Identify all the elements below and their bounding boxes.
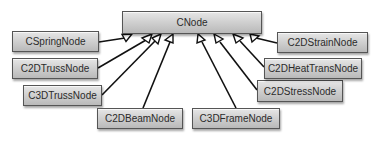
edge-c3dtrussnode <box>102 41 155 95</box>
arrowhead-cspringnode <box>122 34 132 42</box>
edge-c2dtrussnode <box>98 40 146 68</box>
edge-c2dstrainnode <box>256 38 277 43</box>
arrowhead-c2dstrainnode <box>250 34 259 42</box>
class-label-c3dframenode: C3DFrameNode <box>200 113 273 124</box>
edge-c2dbeamnode <box>143 42 170 108</box>
edge-cspringnode <box>99 38 125 42</box>
class-box-cspringnode: CSpringNode <box>12 31 99 52</box>
class-box-c2dstressnode: C2DStressNode <box>257 80 343 102</box>
class-box-c2dheattransnode: C2DHeatTransNode <box>264 58 362 79</box>
arrowhead-c2dstressnode <box>214 34 223 43</box>
class-label-c2dheattransnode: C2DHeatTransNode <box>268 63 358 74</box>
arrowhead-c2dbeamnode <box>165 34 173 43</box>
class-label-cnode: CNode <box>176 17 207 28</box>
class-label-c2dtrussnode: C2DTrussNode <box>21 63 90 74</box>
class-box-c3dframenode: C3DFrameNode <box>192 108 280 129</box>
class-label-c2dbeamnode: C2DBeamNode <box>105 113 175 124</box>
edge-c2dstressnode <box>220 42 257 90</box>
class-box-c2dbeamnode: C2DBeamNode <box>97 108 183 129</box>
edge-c3dframenode <box>202 42 236 108</box>
class-box-cnode: CNode <box>122 11 262 34</box>
class-box-c2dstrainnode: C2DStrainNode <box>277 32 368 53</box>
class-box-c2dtrussnode: C2DTrussNode <box>12 58 98 79</box>
class-label-c2dstressnode: C2DStressNode <box>264 86 336 97</box>
arrowhead-c3dframenode <box>197 34 205 43</box>
class-label-cspringnode: CSpringNode <box>25 36 85 47</box>
class-label-c3dtrussnode: C3DTrussNode <box>28 90 97 101</box>
edge-c2dheattransnode <box>240 41 264 67</box>
class-label-c2dstrainnode: C2DStrainNode <box>287 37 357 48</box>
class-box-c3dtrussnode: C3DTrussNode <box>23 85 102 106</box>
